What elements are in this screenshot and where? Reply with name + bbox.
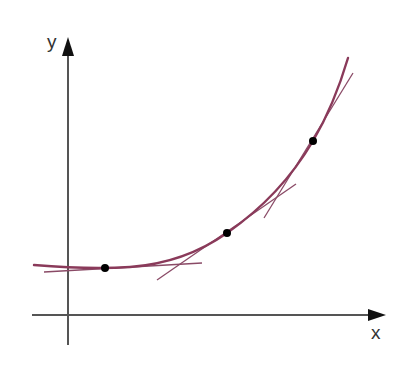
function-curve — [34, 58, 348, 268]
y-axis-label: y — [47, 32, 57, 51]
tangent-point-p1 — [101, 264, 109, 272]
tangent-point-p3 — [309, 137, 317, 145]
x-axis-label: x — [371, 323, 381, 342]
tangent-line-p3 — [264, 73, 353, 218]
diagram-svg — [0, 0, 408, 375]
y-axis-arrow-icon — [62, 37, 74, 56]
diagram-canvas: y x — [0, 0, 408, 375]
tangent-point-p2 — [223, 229, 231, 237]
x-axis-arrow-icon — [368, 309, 386, 321]
